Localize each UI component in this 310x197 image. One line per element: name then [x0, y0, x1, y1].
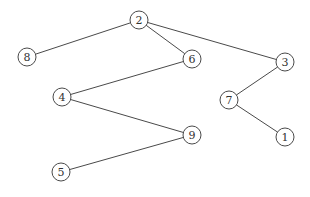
node-label: 7	[226, 94, 233, 107]
node-7: 7	[220, 91, 238, 109]
edge-7-1	[237, 105, 278, 132]
node-label: 2	[136, 14, 143, 27]
edge-2-6	[146, 25, 185, 53]
edge-6-4	[71, 62, 184, 95]
edge-3-7	[236, 67, 277, 95]
nodes-layer: 286347915	[18, 11, 294, 181]
node-label: 9	[189, 129, 196, 142]
node-label: 4	[59, 91, 66, 104]
node-6: 6	[183, 50, 201, 68]
node-label: 5	[58, 166, 65, 179]
graph-svg: 286347915	[0, 0, 310, 197]
node-label: 8	[24, 51, 31, 64]
node-8: 8	[18, 48, 36, 66]
edge-4-9	[71, 100, 184, 133]
node-2: 2	[130, 11, 148, 29]
edges-layer	[36, 22, 278, 169]
node-label: 6	[189, 53, 196, 66]
node-label: 1	[282, 131, 289, 144]
graph-diagram: 286347915	[0, 0, 310, 197]
node-3: 3	[276, 53, 294, 71]
edge-9-5	[70, 137, 184, 169]
node-label: 3	[282, 56, 289, 69]
node-4: 4	[53, 88, 71, 106]
node-1: 1	[276, 128, 294, 146]
edge-2-8	[36, 23, 131, 54]
node-5: 5	[52, 163, 70, 181]
node-9: 9	[183, 126, 201, 144]
